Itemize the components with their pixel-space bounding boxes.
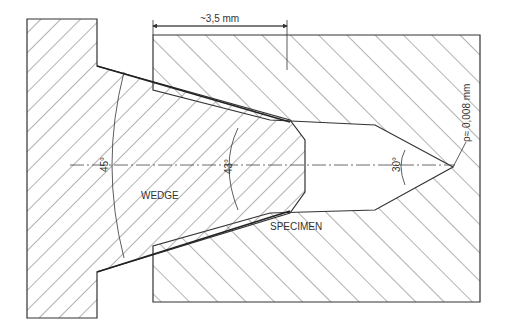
specimen-label: SPECIMEN — [270, 221, 322, 232]
notch-angle-label: 30° — [391, 157, 402, 172]
tip-radius-label: ρ≈ 0,008 mm — [461, 84, 472, 142]
outer-angle-label: 45° — [99, 157, 110, 172]
wedge-angle-label: 43° — [223, 159, 234, 174]
wedge-label: WEDGE — [141, 190, 179, 201]
wedge-specimen-diagram: ~3,5 mm 45° 43° 30° ρ≈ 0,008 mm WEDGE SP… — [0, 0, 505, 335]
width-dimension-label: ~3,5 mm — [200, 13, 239, 24]
